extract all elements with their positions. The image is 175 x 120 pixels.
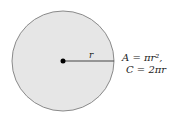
center-point bbox=[61, 59, 66, 64]
area-formula: A = πr², bbox=[122, 52, 163, 63]
circumference-formula: C = 2πr bbox=[126, 64, 166, 75]
radius-label: r bbox=[89, 50, 94, 60]
